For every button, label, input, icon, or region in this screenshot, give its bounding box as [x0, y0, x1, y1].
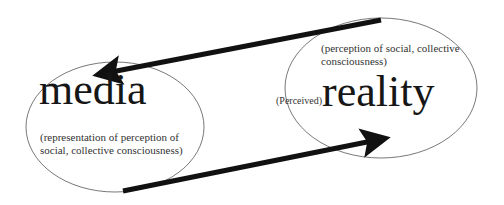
media-reality-diagram: media (representation of perception of s…	[0, 0, 504, 205]
reality-perceived-prefix: (Perceived)	[276, 95, 322, 107]
reality-caption-line1: (perception of social, collective	[321, 42, 460, 55]
media-caption-line1: (representation of perception of	[40, 131, 179, 144]
media-label: media	[39, 65, 147, 114]
reality-label: reality	[322, 67, 434, 116]
media-caption-line2: social, collective consciousness)	[40, 144, 183, 157]
